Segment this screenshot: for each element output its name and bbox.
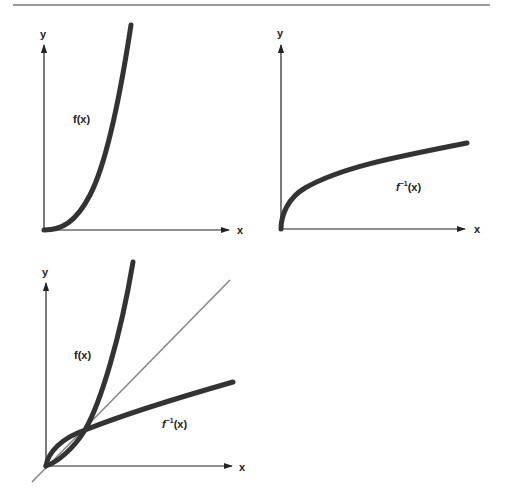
y-axis-label: y <box>42 266 49 278</box>
f-curve-label: f(x) <box>73 113 90 125</box>
y-axis-label: y <box>277 27 284 39</box>
f-curve <box>46 262 133 466</box>
f-curve-label: f(x) <box>74 349 91 361</box>
panel-combined: y x f(x) f−1(x) <box>32 262 246 482</box>
x-axis-label: x <box>474 223 481 235</box>
x-axis-label: x <box>239 461 246 473</box>
f-inverse-label-arg: (x) <box>408 181 422 193</box>
f-inverse-label-sup: −1 <box>166 417 174 424</box>
panel-f: y x f(x) <box>40 25 244 236</box>
inverse-function-diagram: y x f(x) y x f−1(x) y x f(x) f−1(x) <box>0 0 507 502</box>
identity-line <box>32 280 230 482</box>
f-curve <box>44 25 131 230</box>
f-inverse-label-sup: −1 <box>400 180 408 187</box>
f-inverse-label-arg: (x) <box>174 418 188 430</box>
f-inverse-curve-label: f−1(x) <box>396 180 421 193</box>
x-axis-label: x <box>237 224 244 236</box>
f-inverse-curve <box>46 382 233 466</box>
y-axis-label: y <box>40 28 47 40</box>
f-inverse-curve-label: f−1(x) <box>162 417 187 430</box>
f-inverse-curve <box>281 143 467 229</box>
panel-f-inverse: y x f−1(x) <box>277 27 481 235</box>
